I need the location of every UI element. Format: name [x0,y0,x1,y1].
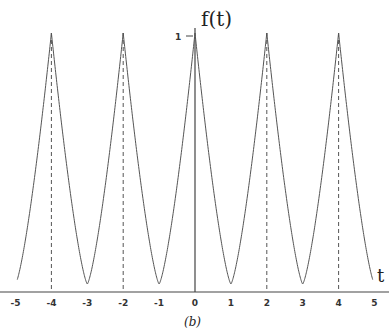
x-tick-label: -2 [118,298,128,308]
x-axis-label: t [377,265,385,286]
x-tick-label: -4 [46,298,56,308]
x-tick-label: 4 [335,298,341,308]
x-tick-label: 3 [300,298,306,308]
y-tick-label-1: 1 [175,32,181,42]
figure-caption: (b) [184,315,201,329]
x-tick-label: -5 [11,298,21,308]
x-tick-label: 2 [264,298,270,308]
x-tick-labels: -5-4-3-2-1012345 [11,298,378,308]
chart: -5-4-3-2-1012345 1 f(t) t (b) [0,0,389,333]
x-tick-label: -1 [154,298,164,308]
y-axis-label: f(t) [201,7,232,31]
x-tick-label: 0 [192,298,198,308]
x-tick-label: 5 [371,298,377,308]
x-tick-label: -3 [82,298,92,308]
x-tick-label: 1 [228,298,234,308]
